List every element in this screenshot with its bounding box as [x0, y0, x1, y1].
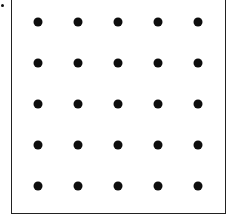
grid-dot — [194, 18, 203, 27]
grid-dot — [154, 100, 163, 109]
grid-dot — [194, 141, 203, 150]
grid-dot — [74, 100, 83, 109]
grid-dot — [34, 141, 43, 150]
grid-dot — [154, 182, 163, 191]
grid-dot — [74, 182, 83, 191]
grid-dot — [34, 59, 43, 68]
grid-dot — [154, 59, 163, 68]
grid-dot — [74, 18, 83, 27]
grid-dot — [34, 18, 43, 27]
grid-dot — [34, 182, 43, 191]
grid-dot — [194, 100, 203, 109]
corner-mark — [1, 4, 4, 7]
grid-dot — [114, 182, 123, 191]
grid-dot — [114, 59, 123, 68]
grid-dot — [194, 182, 203, 191]
grid-dot — [74, 141, 83, 150]
grid-dot — [194, 59, 203, 68]
grid-dot — [34, 100, 43, 109]
grid-dot — [114, 100, 123, 109]
grid-dot — [154, 18, 163, 27]
grid-dot — [114, 141, 123, 150]
grid-dot — [74, 59, 83, 68]
grid-dot — [114, 18, 123, 27]
grid-dot — [154, 141, 163, 150]
